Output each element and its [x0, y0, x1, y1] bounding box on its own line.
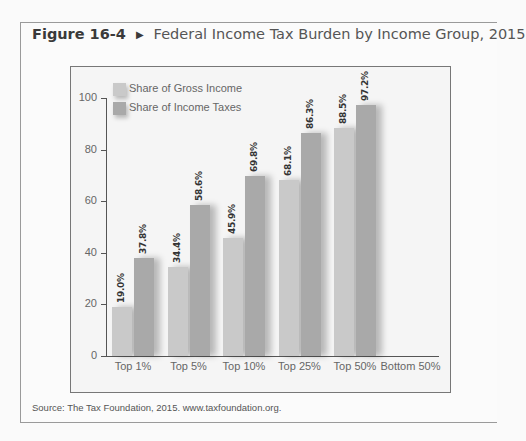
- y-axis: [106, 98, 107, 357]
- bar-gross-income: [112, 307, 132, 356]
- y-tick: [101, 201, 107, 202]
- x-category-label: Top 50%: [325, 360, 385, 372]
- figure-title-text: Federal Income Tax Burden by Income Grou…: [154, 26, 526, 42]
- legend-label: Share of Gross Income: [129, 82, 242, 94]
- y-tick: [101, 356, 107, 357]
- bar-value-label: 88.5%: [338, 94, 348, 124]
- x-category-label: Top 25%: [270, 360, 330, 372]
- bar-gross-income: [168, 267, 188, 356]
- y-tick-label: 100: [73, 91, 97, 103]
- bar-income-taxes: [301, 133, 321, 356]
- bar-value-label: 97.2%: [360, 71, 370, 101]
- y-tick-label: 0: [73, 349, 97, 361]
- bar-value-label: 68.1%: [283, 147, 293, 177]
- triangle-right-icon: ▶: [136, 29, 144, 40]
- x-axis: [106, 356, 439, 357]
- y-tick-label: 80: [73, 143, 97, 155]
- bar-income-taxes: [245, 176, 265, 356]
- bar-gross-income: [279, 180, 299, 356]
- x-category-label: Top 5%: [159, 360, 219, 372]
- legend-item: Share of Income Taxes: [113, 101, 241, 115]
- legend-swatch: [113, 102, 126, 115]
- x-category-label: Top 1%: [103, 360, 163, 372]
- y-tick: [101, 304, 107, 305]
- bar-value-label: 45.9%: [227, 204, 237, 234]
- legend-label: Share of Income Taxes: [129, 101, 241, 113]
- legend-item: Share of Gross Income: [113, 82, 242, 96]
- bar-value-label: 58.6%: [194, 171, 204, 201]
- y-tick-label: 40: [73, 246, 97, 258]
- bar-income-taxes: [356, 105, 376, 356]
- bar-income-taxes: [190, 205, 210, 356]
- y-tick: [101, 150, 107, 151]
- bar-value-label: 37.8%: [138, 225, 148, 255]
- bar-income-taxes: [134, 258, 154, 356]
- bar-gross-income: [223, 238, 243, 356]
- y-tick: [101, 98, 107, 99]
- figure-number: Figure 16-4: [32, 26, 126, 42]
- source-note: Source: The Tax Foundation, 2015. www.ta…: [32, 402, 281, 413]
- bar-value-label: 69.8%: [249, 142, 259, 172]
- x-category-label: Top 10%: [214, 360, 274, 372]
- y-tick: [101, 253, 107, 254]
- x-category-label: Bottom 50%: [381, 360, 441, 372]
- figure-title: Figure 16-4▶Federal Income Tax Burden by…: [32, 26, 526, 42]
- y-tick-label: 60: [73, 194, 97, 206]
- bar-value-label: 86.3%: [305, 100, 315, 130]
- y-tick-label: 20: [73, 297, 97, 309]
- bar-gross-income: [334, 128, 354, 356]
- bar-value-label: 19.0%: [116, 273, 126, 303]
- bar-value-label: 34.4%: [172, 234, 182, 264]
- legend-swatch: [113, 83, 126, 96]
